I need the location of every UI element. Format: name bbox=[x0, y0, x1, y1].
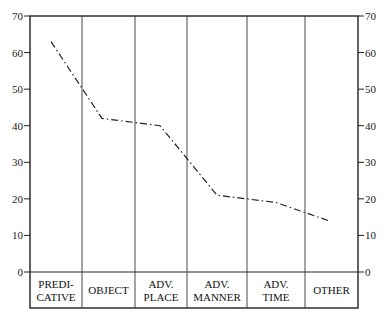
column-dividers bbox=[82, 16, 305, 308]
category-label: MANNER bbox=[193, 291, 241, 303]
y-tick-label-left: 0 bbox=[18, 266, 24, 278]
category-label: OBJECT bbox=[88, 284, 129, 296]
y-tick-label-right: 10 bbox=[365, 229, 377, 241]
y-tick-label-left: 20 bbox=[12, 193, 24, 205]
line-chart: 010203040506070 010203040506070 PREDI-CA… bbox=[0, 0, 384, 318]
category-label: ADV. bbox=[204, 278, 229, 290]
category-label: TIME bbox=[263, 291, 290, 303]
plot-frame bbox=[30, 16, 358, 308]
category-label: ADV. bbox=[263, 278, 288, 290]
y-tick-label-left: 10 bbox=[12, 229, 24, 241]
y-tick-label-right: 30 bbox=[365, 156, 377, 168]
y-tick-label-left: 30 bbox=[12, 156, 24, 168]
y-axis-right: 010203040506070 bbox=[358, 10, 377, 278]
y-axis-left: 010203040506070 bbox=[12, 10, 30, 278]
y-tick-label-right: 20 bbox=[365, 193, 377, 205]
category-label: PLACE bbox=[144, 291, 179, 303]
category-label: OTHER bbox=[313, 284, 350, 296]
y-tick-label-left: 40 bbox=[12, 120, 24, 132]
data-line bbox=[51, 42, 329, 221]
y-tick-label-left: 70 bbox=[12, 10, 24, 22]
y-tick-label-right: 0 bbox=[365, 266, 371, 278]
y-tick-label-right: 70 bbox=[365, 10, 377, 22]
y-tick-label-right: 50 bbox=[365, 83, 377, 95]
y-tick-label-right: 60 bbox=[365, 47, 377, 59]
y-tick-label-right: 40 bbox=[365, 120, 377, 132]
category-labels: PREDI-CATIVEOBJECTADV.PLACEADV.MANNERADV… bbox=[36, 278, 350, 303]
category-label: ADV. bbox=[148, 278, 173, 290]
category-label: CATIVE bbox=[36, 291, 75, 303]
y-tick-label-left: 50 bbox=[12, 83, 24, 95]
category-label: PREDI- bbox=[38, 278, 74, 290]
y-tick-label-left: 60 bbox=[12, 47, 24, 59]
